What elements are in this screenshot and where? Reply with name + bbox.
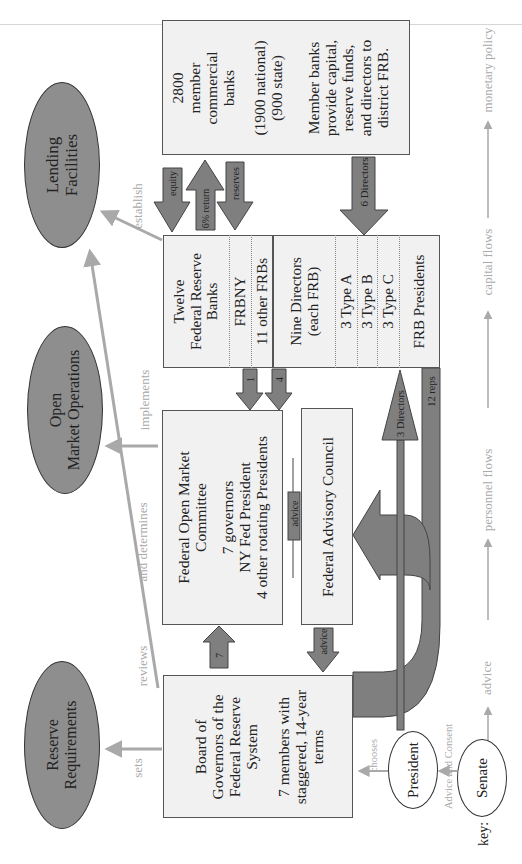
reserves-label: reserves bbox=[230, 157, 241, 211]
fomc-box: Federal Open Market Committee 7 governor… bbox=[162, 410, 283, 625]
banks-desc1: Member banks bbox=[304, 41, 321, 134]
three-directors-shaft bbox=[397, 440, 404, 730]
banks-desc2: provide capital, bbox=[321, 39, 338, 135]
nine-directors-2: (each FRB) bbox=[305, 267, 322, 337]
twelve-reps-label: 12 reps bbox=[426, 366, 437, 418]
fomc-title1: Federal Open Market bbox=[175, 451, 192, 584]
board-of-governors-box: Board of Governors of the Federal Reserv… bbox=[163, 675, 353, 818]
banks-line3: commercial bbox=[202, 51, 219, 124]
four-label: 4 bbox=[274, 370, 285, 390]
banks-sub2: (900 state) bbox=[267, 55, 284, 121]
banks-line1: 2800 bbox=[168, 72, 185, 103]
board-t4: System bbox=[242, 724, 259, 770]
banks-sub1: (1900 national) bbox=[250, 40, 267, 135]
six-directors-label: 6 Directors bbox=[358, 148, 370, 216]
one-label: 1 bbox=[245, 370, 256, 390]
advice-consent-label: Advice and Consent bbox=[443, 707, 454, 827]
federal-advisory-council-box: Federal Advisory Council bbox=[301, 408, 353, 625]
board-t1: Board of bbox=[191, 719, 208, 774]
banks-desc5: district FRB. bbox=[373, 47, 390, 127]
open-market-ellipse: Open Market Operations bbox=[27, 326, 103, 494]
open-market-label-1: Open bbox=[47, 393, 65, 428]
banks-line2: member bbox=[185, 62, 202, 113]
implements-label: implements bbox=[137, 360, 153, 440]
three-directors-label: 3 Directors bbox=[395, 380, 406, 448]
type-b: 3 Type B bbox=[359, 274, 376, 329]
return-label: 6% return bbox=[200, 181, 211, 237]
frb-title1: Twelve bbox=[171, 280, 188, 324]
seven-label: 7 bbox=[214, 646, 225, 666]
banks-desc3: reserve funds, bbox=[338, 44, 355, 131]
senate-label: Senate bbox=[474, 758, 491, 798]
banks-desc4: and directors to bbox=[356, 39, 373, 135]
and-determines-label: and determines bbox=[135, 487, 151, 597]
member-banks-box: 2800 member commercial banks (1900 natio… bbox=[162, 20, 410, 155]
board-t3: Federal Reserve bbox=[225, 696, 242, 796]
key-monetary: monetary policy bbox=[480, 18, 496, 122]
board-d1: 7 members with bbox=[274, 697, 291, 797]
chooses-label: chooses bbox=[368, 730, 379, 782]
advice-fomc-label: advice bbox=[289, 490, 300, 538]
key-capital: capital flows bbox=[480, 219, 496, 305]
president-ellipse: President bbox=[388, 731, 438, 809]
establish-label: establish bbox=[130, 176, 146, 236]
lending-facilities-label: Lending Facilities bbox=[43, 120, 81, 210]
board-d3: terms bbox=[308, 729, 325, 763]
fomc-m3: 4 other rotating Presidents bbox=[253, 436, 270, 599]
frb-presidents: FRB Presidents bbox=[411, 255, 428, 349]
other-frbs-label: 11 other FRBs bbox=[254, 258, 271, 345]
reserve-label-2: Requirements bbox=[62, 701, 80, 790]
nine-directors-1: Nine Directors bbox=[288, 257, 305, 346]
fomc-m2: NY Fed President bbox=[236, 462, 253, 573]
senate-ellipse: Senate bbox=[457, 739, 507, 817]
president-label: President bbox=[405, 742, 422, 798]
frb-title2: Federal Reserve bbox=[188, 253, 205, 350]
lending-facilities-ellipse: Lending Facilities bbox=[24, 82, 100, 248]
frbny-label: FRBNY bbox=[232, 276, 249, 326]
type-c: 3 Type C bbox=[380, 274, 397, 329]
reserve-requirements-ellipse: Reserve Requirements bbox=[24, 661, 100, 829]
frb-title3: Banks bbox=[204, 283, 221, 321]
reserve-label-1: Reserve bbox=[44, 719, 62, 771]
equity-label: equity bbox=[167, 160, 178, 208]
type-a: 3 Type A bbox=[338, 274, 355, 329]
advice-board-label: advice bbox=[318, 618, 329, 666]
sets-label: sets bbox=[130, 750, 146, 786]
board-d2: staggered, 14-year bbox=[291, 689, 308, 803]
fac-title: Federal Advisory Council bbox=[318, 436, 336, 596]
key-personnel: personnel flows bbox=[480, 442, 496, 538]
board-t2: Governors of the bbox=[208, 694, 225, 799]
federal-reserve-banks-box: Twelve Federal Reserve Banks FRBNY 11 ot… bbox=[163, 235, 440, 368]
key-advice: advice bbox=[479, 653, 495, 703]
reviews-label: reviews bbox=[135, 638, 151, 694]
key-label: key: bbox=[476, 814, 492, 854]
fomc-title2: Committee bbox=[192, 483, 209, 552]
banks-line4: banks bbox=[219, 69, 236, 105]
open-market-label-2: Market Operations bbox=[65, 350, 83, 470]
fomc-m1: 7 governors bbox=[219, 481, 236, 555]
